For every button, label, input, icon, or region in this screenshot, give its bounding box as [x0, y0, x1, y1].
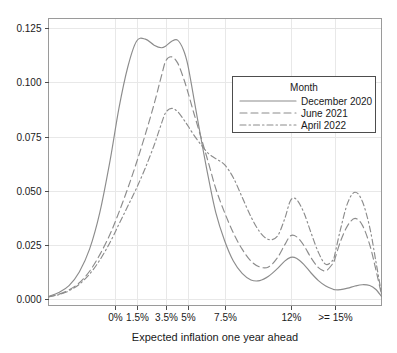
y-tick-label-2: 0.050: [16, 186, 41, 197]
chart-canvas: 0.0000.0250.0500.0750.1000.125 0%1.5%3.5…: [0, 0, 397, 353]
y-tick-label-5: 0.125: [16, 23, 41, 34]
legend-label-0: December 2020: [301, 96, 373, 107]
legend-title: Month: [290, 82, 318, 93]
x-tick-label-2: 3.5%: [155, 312, 178, 323]
x-tick-label-4: 7.5%: [214, 312, 237, 323]
y-tick-label-4: 0.100: [16, 77, 41, 88]
legend[interactable]: Month December 2020June 2021April 2022: [233, 77, 376, 133]
density-chart: 0.0000.0250.0500.0750.1000.125 0%1.5%3.5…: [0, 0, 397, 353]
x-tick-label-1: 1.5%: [126, 312, 149, 323]
x-axis-title: Expected inflation one year ahead: [132, 331, 298, 343]
x-tick-label-5: 12%: [281, 312, 301, 323]
chart-background: [0, 0, 397, 353]
y-tick-label-1: 0.025: [16, 240, 41, 251]
x-tick-label-3: 5%: [181, 312, 196, 323]
y-tick-label-0: 0.000: [16, 294, 41, 305]
x-tick-label-0: 0%: [108, 312, 123, 323]
legend-label-2: April 2022: [301, 120, 346, 131]
x-tick-label-6: >= 15%: [318, 312, 353, 323]
y-tick-label-3: 0.075: [16, 132, 41, 143]
legend-label-1: June 2021: [301, 108, 348, 119]
